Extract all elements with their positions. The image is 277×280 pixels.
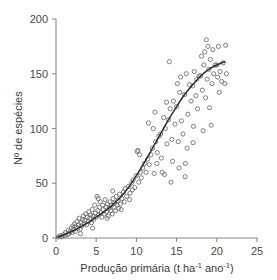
data-point — [151, 126, 155, 130]
data-point — [194, 94, 198, 98]
data-point — [165, 142, 169, 146]
x-axis-title: Produção primária (t ha-1 ano-1) — [80, 261, 233, 274]
data-point — [155, 161, 159, 165]
y-tick-label: 200 — [30, 13, 48, 25]
data-point — [167, 60, 171, 64]
data-point — [208, 57, 212, 61]
data-point — [199, 54, 203, 58]
scatter-plot: 050100150200 0510152025 Nº de espécies P… — [0, 0, 277, 280]
data-point — [200, 88, 204, 92]
data-point — [176, 140, 180, 144]
data-point — [217, 90, 221, 94]
data-point — [224, 43, 228, 47]
y-tick-label: 100 — [30, 123, 48, 135]
x-axis-title-main: Produção primária (t ha — [80, 262, 196, 274]
data-point — [90, 226, 94, 230]
data-point — [191, 124, 195, 128]
data-point — [170, 137, 174, 141]
data-point — [159, 156, 163, 160]
fit-curve — [58, 62, 225, 237]
data-point — [173, 122, 177, 126]
chart-figure: 050100150200 0510152025 Nº de espécies P… — [0, 0, 277, 280]
data-point — [203, 50, 207, 54]
x-tick-label: 15 — [170, 245, 182, 257]
x-axis-title-mid: ano — [202, 262, 223, 274]
data-point — [207, 106, 211, 110]
y-axis-title: Nº de espécies — [12, 91, 24, 165]
data-point — [147, 163, 151, 167]
data-point — [204, 38, 208, 42]
data-point — [146, 121, 150, 125]
data-point — [195, 107, 199, 111]
data-point — [184, 72, 188, 76]
data-point — [183, 161, 187, 165]
data-point — [139, 176, 143, 180]
data-point — [211, 72, 215, 76]
data-point — [209, 123, 213, 127]
data-point — [137, 180, 141, 184]
data-point — [206, 44, 210, 48]
data-point — [170, 159, 174, 163]
data-point — [103, 198, 107, 202]
x-tick-label: 25 — [251, 245, 263, 257]
data-point — [210, 82, 214, 86]
data-point — [203, 96, 207, 100]
data-point — [144, 170, 148, 174]
data-point — [152, 171, 156, 175]
data-point — [218, 69, 222, 73]
data-point — [216, 75, 220, 79]
data-point — [189, 99, 193, 103]
data-point — [78, 232, 82, 236]
data-point — [136, 148, 140, 152]
data-point — [111, 189, 115, 193]
y-axis-tick-labels: 050100150200 — [30, 13, 48, 244]
y-tick-label: 0 — [42, 232, 48, 244]
data-point — [211, 48, 215, 52]
x-axis-tick-labels: 0510152025 — [53, 245, 263, 257]
data-point — [171, 99, 175, 103]
data-point — [205, 77, 209, 81]
data-point — [185, 146, 189, 150]
x-tick-label: 20 — [211, 245, 223, 257]
data-point — [164, 100, 168, 104]
x-axis-ticks — [56, 238, 257, 242]
data-point — [162, 115, 166, 119]
y-axis-ticks — [52, 19, 56, 238]
data-point — [202, 63, 206, 67]
data-point — [191, 141, 195, 145]
data-point — [169, 180, 173, 184]
data-point — [175, 82, 179, 86]
data-point — [178, 90, 182, 94]
data-point — [192, 69, 196, 73]
x-tick-label: 10 — [130, 245, 142, 257]
x-axis-title-end: ) — [230, 262, 234, 274]
x-tick-label: 0 — [53, 245, 59, 257]
data-point — [155, 150, 159, 154]
x-axis-title-sup2: -1 — [223, 261, 230, 270]
data-point — [92, 203, 96, 207]
data-point — [201, 129, 205, 133]
data-point — [186, 112, 190, 116]
x-axis-title-sup1: -1 — [195, 261, 202, 270]
data-point — [138, 153, 142, 157]
y-tick-label: 50 — [36, 177, 48, 189]
data-point — [224, 72, 228, 76]
data-point — [223, 82, 227, 86]
data-point — [153, 110, 157, 114]
y-tick-label: 150 — [30, 68, 48, 80]
data-point — [179, 119, 183, 123]
x-tick-label: 5 — [93, 245, 99, 257]
data-point — [177, 166, 181, 170]
data-point — [216, 44, 220, 48]
data-point — [181, 132, 185, 136]
data-point — [183, 175, 187, 179]
data-point — [179, 75, 183, 79]
data-point — [168, 107, 172, 111]
data-point — [127, 198, 131, 202]
data-point — [122, 200, 126, 204]
data-points — [56, 38, 228, 239]
